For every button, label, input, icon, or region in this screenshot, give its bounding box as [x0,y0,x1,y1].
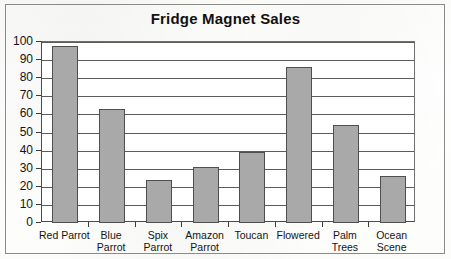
chart-screenshot: Fridge Magnet Sales 10090807060504030201… [0,0,451,259]
bar [239,152,265,223]
x-tick [228,222,229,227]
y-axis-label: 100 [3,35,33,47]
x-tick [368,222,369,227]
y-axis-label: 0 [3,216,33,228]
y-axis-label: 70 [3,89,33,101]
y-axis-label: 40 [3,144,33,156]
bar [146,180,172,223]
x-tick [322,222,323,227]
bar [193,167,219,223]
x-axis-label-line: Scene [363,242,420,254]
y-axis-label: 60 [3,107,33,119]
gridline-90 [42,60,414,61]
x-tick [88,222,89,227]
x-tick [181,222,182,227]
gridline-60 [42,114,414,115]
bar [286,67,312,223]
gridline-80 [42,78,414,79]
x-axis-label-line: Parrot [176,242,233,254]
plot-area [41,41,415,222]
y-axis-label: 20 [3,180,33,192]
y-axis-label: 10 [3,198,33,210]
x-axis-label: OceanScene [363,230,420,253]
bar [333,125,359,223]
y-axis-label: 80 [3,71,33,83]
y-axis-label: 30 [3,162,33,174]
x-tick [275,222,276,227]
y-axis-label: 90 [3,53,33,65]
y-tick-0 [36,222,41,223]
x-axis-label-line: Ocean [363,230,420,242]
y-axis-label: 50 [3,126,33,138]
bar [52,46,78,223]
chart-title: Fridge Magnet Sales [0,10,451,27]
x-tick [135,222,136,227]
bar [380,176,406,223]
gridline-70 [42,96,414,97]
bar [99,109,125,223]
gridline-100 [42,42,414,43]
